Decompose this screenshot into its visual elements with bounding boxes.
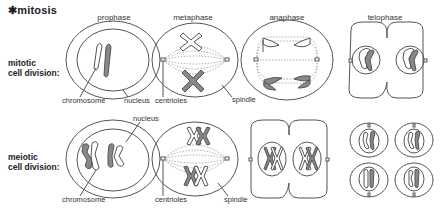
label-spindle-meiotic: spindle: [224, 195, 248, 204]
mitotic-anaphase-cell: [241, 20, 333, 100]
label-nucleus-mitotic: nucleus: [124, 96, 150, 105]
mitotic-telophase-cell: [349, 22, 427, 98]
label-nucleus-meiotic: nucleus: [133, 114, 159, 123]
mitotic-metaphase-cell: [152, 23, 238, 97]
daughter-cell-4: [395, 163, 433, 197]
meiotic-anaphase-cell: [249, 120, 329, 198]
label-spindle-mitotic: spindle: [232, 95, 256, 104]
mitosis-diagram: [0, 0, 440, 211]
mitotic-prophase-cell: [66, 21, 160, 99]
meiotic-prophase-cell: [66, 120, 160, 198]
daughter-cell-2: [395, 123, 433, 157]
label-centrioles-mitotic: centrioles: [155, 96, 187, 105]
daughter-cell-1: [350, 123, 388, 157]
meiotic-telophase-cells: [350, 123, 433, 197]
meiotic-metaphase-cell: [152, 122, 238, 196]
label-centrioles-meiotic: centrioles: [155, 195, 187, 204]
daughter-cell-3: [350, 163, 388, 197]
spindle-pointer: [222, 85, 232, 97]
label-chromosome-mitotic: chromosome: [62, 96, 105, 105]
label-chromosome-meiotic: chromosome: [62, 195, 105, 204]
